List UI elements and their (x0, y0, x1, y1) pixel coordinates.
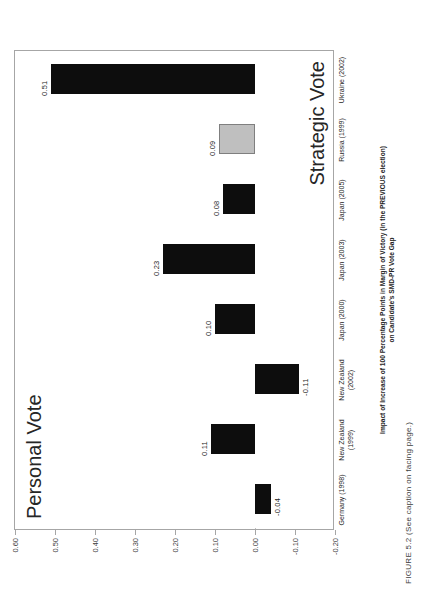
value-axis-tick-label: 0.00 (251, 538, 260, 553)
value-axis-tick-mark (255, 530, 256, 535)
figure-page: 0.600.500.400.300.200.100.00-0.10-0.20 -… (0, 0, 429, 592)
category-axis-label: Japan (2000) (338, 290, 347, 350)
bar (215, 304, 255, 334)
value-axis-title-line1: Impact of Increase of 100 Percentage Poi… (378, 50, 387, 530)
bar-value-label: 0.51 (40, 81, 49, 96)
category-axis-label: New Zealand (2002) (338, 350, 355, 410)
rotated-figure-stage: 0.600.500.400.300.200.100.00-0.10-0.20 -… (0, 0, 429, 592)
value-axis-title-line2: on Candidate's SMD-PR Vote Gap (387, 50, 396, 530)
value-axis-tick-mark (135, 530, 136, 535)
category-axis-label: Ukraine (2002) (338, 50, 347, 110)
bar (51, 64, 255, 94)
value-axis-tick-label: 0.50 (51, 538, 60, 553)
value-axis-tick-mark (295, 530, 296, 535)
value-axis-tick-label: 0.10 (211, 538, 220, 553)
value-axis-tick-label: -0.20 (331, 538, 340, 555)
figure-caption: FIGURE 5.2 (See caption on facing page.) (404, 422, 413, 584)
bar (211, 424, 255, 454)
value-axis-tick-mark (335, 530, 336, 535)
value-axis-tick-mark (215, 530, 216, 535)
category-axis-label: Germany (1998) (338, 470, 347, 530)
value-axis-tick-mark (55, 530, 56, 535)
category-axis-label: Japan (2005) (338, 170, 347, 230)
value-axis-tick-label: 0.20 (171, 538, 180, 553)
bar (255, 484, 271, 514)
bar (255, 364, 299, 394)
value-axis-tick-mark (175, 530, 176, 535)
bar-value-label: -0.04 (273, 498, 282, 516)
value-axis-tick-mark (15, 530, 16, 535)
category-axis: Germany (1998)New Zealand (1999)New Zeal… (336, 50, 376, 530)
annotation-strategic-vote: Strategic Vote (306, 61, 329, 186)
bar-value-label: 0.10 (204, 321, 213, 336)
value-axis-title: Impact of Increase of 100 Percentage Poi… (378, 50, 396, 530)
bar-value-label: 0.11 (200, 441, 209, 456)
bar (163, 244, 255, 274)
bar-value-label: -0.11 (301, 378, 310, 396)
bar (223, 184, 255, 214)
bar (219, 124, 255, 154)
bar-value-label: 0.08 (212, 201, 221, 216)
annotation-personal-vote: Personal Vote (23, 394, 46, 519)
value-axis: 0.600.500.400.300.200.100.00-0.10-0.20 (14, 530, 334, 592)
category-axis-label: New Zealand (1999) (338, 410, 355, 470)
bars-layer: -0.040.11-0.110.100.230.080.090.51 (15, 51, 333, 529)
category-axis-label: Japan (2003) (338, 230, 347, 290)
value-axis-tick-label: 0.60 (11, 538, 20, 553)
bar-value-label: 0.09 (208, 141, 217, 156)
value-axis-tick-label: -0.10 (291, 538, 300, 555)
value-axis-tick-mark (95, 530, 96, 535)
bar-chart-figure: 0.600.500.400.300.200.100.00-0.10-0.20 -… (0, 0, 429, 592)
value-axis-tick-label: 0.40 (91, 538, 100, 553)
bar-value-label: 0.23 (152, 261, 161, 276)
plot-area: -0.040.11-0.110.100.230.080.090.51 Perso… (14, 50, 334, 530)
value-axis-tick-label: 0.30 (131, 538, 140, 553)
category-axis-label: Russia (1999) (338, 110, 347, 170)
